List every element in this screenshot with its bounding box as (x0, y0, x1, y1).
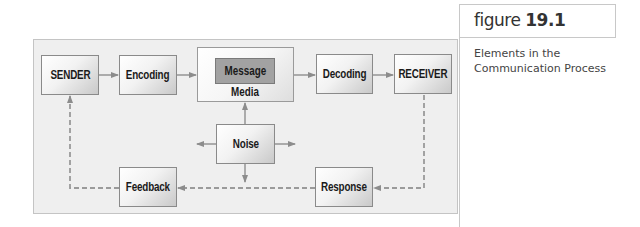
node-label: Decoding (323, 67, 367, 81)
node-decoding: Decoding (316, 54, 373, 94)
node-feedback: Feedback (119, 167, 177, 207)
node-label: Noise (233, 137, 259, 151)
node-message: Message (215, 58, 275, 84)
node-response: Response (315, 167, 373, 207)
node-noise: Noise (216, 124, 275, 164)
node-label: RECEIVER (399, 67, 448, 81)
node-label: Response (321, 180, 367, 194)
node-label: Message (224, 64, 266, 78)
arrow-receiver-response (374, 95, 424, 188)
media-label: Media (197, 85, 294, 99)
arrow-feedback-sender (70, 96, 119, 188)
node-encoding: Encoding (119, 55, 177, 95)
node-sender: SENDER (41, 55, 99, 95)
node-label: Media (232, 85, 260, 99)
node-receiver: RECEIVER (394, 54, 452, 94)
node-label: Encoding (126, 68, 170, 82)
node-label: SENDER (50, 68, 90, 82)
node-label: Feedback (126, 180, 170, 194)
